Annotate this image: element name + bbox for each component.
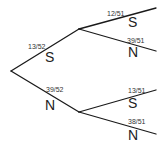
outcome-label-S: S [45, 50, 54, 64]
outcome-label-SS: S [128, 15, 137, 29]
prob-label-SS: 12/51 [107, 10, 125, 17]
prob-label-S: 13/52 [28, 43, 46, 50]
outcome-label-NN: N [128, 128, 138, 142]
prob-label-NS: 13/51 [128, 87, 146, 94]
probability-tree: 13/52 S 39/52 N 12/51 S 39/51 N 13/51 S … [0, 0, 167, 149]
prob-label-NN: 38/51 [128, 118, 146, 125]
tree-branches [0, 0, 167, 149]
prob-label-SN: 39/51 [127, 37, 145, 44]
outcome-label-SN: N [128, 45, 138, 59]
prob-label-N: 39/52 [46, 86, 64, 93]
outcome-label-N: N [45, 98, 55, 112]
outcome-label-NS: S [128, 96, 137, 110]
